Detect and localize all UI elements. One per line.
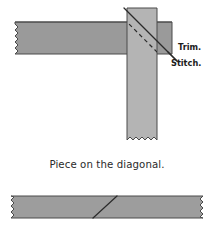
figure-caption: Piece on the diagonal. [49,159,164,170]
stitch-label: Stitch. [171,58,201,68]
figure-container: Trim. Stitch. Piece on the diagonal. [0,0,214,228]
trim-label: Trim. [178,42,201,52]
diagram-canvas: Trim. Stitch. Piece on the diagonal. [0,0,214,228]
bottom-strip [7,196,207,218]
vertical-strip [127,8,157,144]
bottom-diagram [7,196,207,218]
